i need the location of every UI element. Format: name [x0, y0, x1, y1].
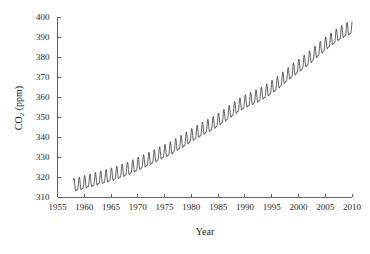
x-axis-tick-labels: 1955196019651970197519801985199019952000…	[49, 202, 362, 212]
x-tick-label: 2005	[316, 202, 335, 212]
y-tick-label: 330	[36, 152, 50, 162]
y-tick-label: 390	[36, 32, 50, 42]
x-tick-label: 1995	[263, 202, 282, 212]
y-axis-tick-marks	[58, 18, 62, 198]
x-tick-label: 1985	[209, 202, 228, 212]
y-tick-label: 370	[36, 72, 50, 82]
y-tick-label: 360	[36, 92, 50, 102]
y-tick-label: 310	[36, 192, 50, 202]
co2-chart-figure: 310320330340350360370380390400 195519601…	[0, 0, 370, 254]
y-tick-label: 380	[36, 52, 50, 62]
x-tick-label: 1980	[182, 202, 201, 212]
co2-line-chart: 310320330340350360370380390400 195519601…	[0, 0, 370, 254]
y-tick-label: 340	[36, 132, 50, 142]
y-tick-label: 350	[36, 112, 50, 122]
x-tick-label: 1990	[236, 202, 255, 212]
x-tick-label: 1965	[102, 202, 121, 212]
y-axis-tick-labels: 310320330340350360370380390400	[36, 12, 50, 202]
y-tick-label: 320	[36, 172, 50, 182]
x-tick-label: 1960	[75, 202, 94, 212]
x-tick-label: 1970	[129, 202, 148, 212]
x-tick-label: 2000	[289, 202, 308, 212]
y-axis-title: CO2 (ppm)	[13, 86, 26, 130]
x-tick-label: 1955	[49, 202, 68, 212]
x-tick-label: 1975	[156, 202, 175, 212]
x-tick-label: 2010	[343, 202, 362, 212]
x-axis-title: Year	[196, 226, 215, 237]
y-tick-label: 400	[36, 12, 50, 22]
co2-data-line	[74, 22, 352, 191]
x-axis-tick-marks	[58, 194, 353, 198]
